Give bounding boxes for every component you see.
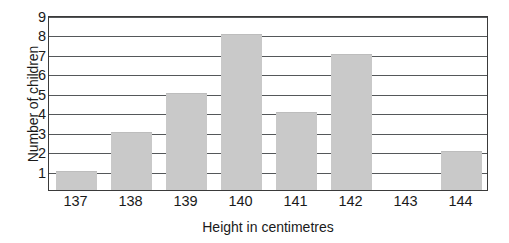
bar [111, 132, 152, 190]
bar [276, 112, 317, 190]
x-axis-tick-label: 144 [448, 194, 472, 210]
bar [331, 54, 372, 190]
bar-chart: Number of children 987654321 13713813914… [0, 0, 509, 243]
x-axis-tick-label: 138 [118, 194, 142, 210]
y-axis-tick-label: 5 [22, 88, 46, 103]
bar [56, 171, 97, 190]
x-axis-tick-label: 137 [63, 194, 87, 210]
x-axis-tick-label: 142 [338, 194, 362, 210]
y-axis-tick-label: 9 [22, 10, 46, 25]
y-axis-tick-label: 2 [22, 146, 46, 161]
y-axis-tick-label: 8 [22, 29, 46, 44]
y-axis-tick-label: 6 [22, 68, 46, 83]
bar [221, 34, 262, 190]
y-axis-tick-label: 4 [22, 107, 46, 122]
y-axis-tick-label: 1 [22, 165, 46, 180]
y-axis-tick-label: 3 [22, 126, 46, 141]
x-axis-tick-labels: 137138139140141142143144 [48, 194, 488, 214]
y-axis-tick-labels: 987654321 [22, 17, 46, 190]
plot-area [48, 16, 488, 191]
x-axis-title: Height in centimetres [48, 219, 488, 235]
bar [166, 93, 207, 190]
x-axis-tick-label: 143 [393, 194, 417, 210]
bar [441, 151, 482, 190]
x-axis-tick-label: 139 [173, 194, 197, 210]
bars-layer [49, 17, 487, 190]
x-axis-tick-label: 141 [283, 194, 307, 210]
x-axis-tick-label: 140 [228, 194, 252, 210]
y-axis-tick-label: 7 [22, 49, 46, 64]
